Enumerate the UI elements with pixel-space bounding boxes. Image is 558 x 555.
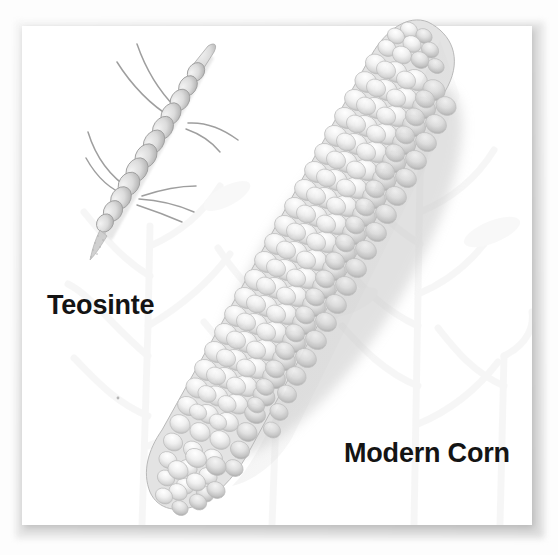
figure-root: Teosinte Modern Corn (0, 0, 558, 555)
label-modern-corn: Modern Corn (344, 440, 510, 467)
label-teosinte: Teosinte (47, 292, 154, 319)
